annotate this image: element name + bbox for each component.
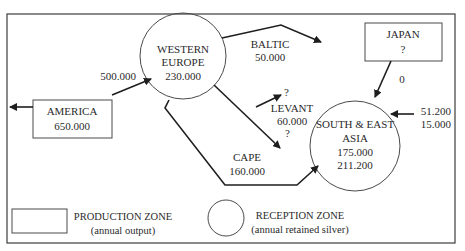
flow-name: BALTIC [251,38,290,50]
legend-subtitle: (annual retained silver) [251,224,349,236]
node-south-east-asia: SOUTH & EAST ASIA 175.000 211.200 [310,101,400,191]
flow-value: 160.000 [229,165,265,177]
node-america: AMERICA 650.000 [33,100,112,138]
node-value-1: 175.000 [337,146,373,158]
node-value-2: 211.200 [337,159,373,171]
flow-name: LEVANT [271,102,314,114]
node-name: AMERICA [47,105,98,117]
node-name-line2: EUROPE [162,56,205,68]
silver-flow-diagram: WESTERN EUROPE 230.000 AMERICA 650.000 J… [0,0,465,251]
flow-baltic: BALTIC 50.000 [222,25,321,63]
flow-value-1: 51.200 [421,105,452,117]
flow-name: CAPE [233,151,261,163]
flow-value-2: 15.000 [421,118,452,130]
node-western-europe: WESTERN EUROPE 230.000 [140,13,226,99]
node-name: JAPAN [386,28,419,40]
flow-value: 60.000 [277,115,308,127]
node-value: ? [401,43,406,55]
flow-unknown-bottom: ? [285,127,290,139]
production-zone-legend-box [12,209,67,233]
flow-label: 500.000 [100,70,136,82]
legend-title: PRODUCTION ZONE [74,211,172,222]
flow-value: 50.000 [255,51,286,63]
flow-arrow [375,61,391,97]
node-name-line2: ASIA [342,132,368,144]
legend-production-zone: PRODUCTION ZONE (annual output) [12,209,172,237]
flow-label: 0 [399,73,405,85]
node-name-line1: SOUTH & EAST [316,118,395,130]
legend-reception-zone: RECEPTION ZONE (annual retained silver) [208,200,349,236]
legend-subtitle: (annual output) [91,225,156,237]
reception-zone-legend-circle [208,200,244,236]
node-japan: JAPAN ? [365,23,442,61]
node-value: 650.000 [54,120,90,132]
node-name-line1: WESTERN [157,43,209,55]
flow-japan-to-asia: 0 [375,61,405,97]
flow-arrow [214,85,280,148]
flow-unknown-top: ? [284,86,289,98]
legend-title: RECEPTION ZONE [256,210,344,221]
flow-external-to-asia: 51.200 15.000 [391,105,452,130]
flow-levant: ? LEVANT 60.000 ? [214,85,314,148]
node-value: 230.000 [165,70,201,82]
